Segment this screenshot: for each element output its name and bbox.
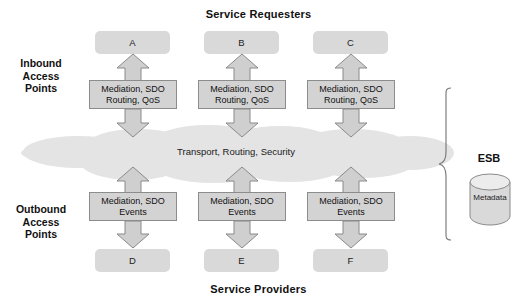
outbound-access-points-label: Outbound Access Points [2,203,80,241]
outbound-access-point-d[interactable]: Mediation, SDO Events [89,192,177,221]
arrow-up-inbound-c-icon [333,53,369,81]
provider-box-e[interactable]: E [204,249,279,272]
inbound-access-point-b-label: Mediation, SDO Routing, QoS [210,84,274,106]
esb-title: ESB [462,152,516,164]
provider-box-f[interactable]: F [313,249,388,272]
outbound-access-point-d-label: Mediation, SDO Events [101,196,165,218]
arrow-up-inbound-b-icon [224,53,260,81]
provider-box-d[interactable]: D [95,249,170,272]
requester-box-c[interactable]: C [313,31,388,54]
inbound-access-point-c-label: Mediation, SDO Routing, QoS [319,84,383,106]
outbound-access-point-f-label: Mediation, SDO Events [319,196,383,218]
arrow-down-inbound-c-icon [333,108,369,138]
inbound-access-point-a[interactable]: Mediation, SDO Routing, QoS [89,80,177,109]
outbound-access-point-e[interactable]: Mediation, SDO Events [198,192,286,221]
service-providers-title: Service Providers [0,283,517,295]
outbound-access-point-f[interactable]: Mediation, SDO Events [307,192,395,221]
service-bus-label: Transport, Routing, Security [18,146,454,157]
arrow-down-provider-f-icon [333,220,369,249]
arrow-up-inbound-a-icon [115,53,151,81]
inbound-access-point-b[interactable]: Mediation, SDO Routing, QoS [198,80,286,109]
esb-brace-icon [437,86,455,242]
outbound-access-point-e-label: Mediation, SDO Events [210,196,274,218]
inbound-access-points-label: Inbound Access Points [2,57,80,95]
arrow-down-provider-e-icon [224,220,260,249]
arrow-down-inbound-b-icon [224,108,260,138]
requester-box-a[interactable]: A [95,31,170,54]
esb-diagram: Service Requesters Inbound Access Points… [0,0,517,302]
inbound-access-point-c[interactable]: Mediation, SDO Routing, QoS [307,80,395,109]
requester-box-b[interactable]: B [204,31,279,54]
arrow-down-inbound-a-icon [115,108,151,138]
service-requesters-title: Service Requesters [0,8,517,20]
inbound-access-point-a-label: Mediation, SDO Routing, QoS [101,84,165,106]
metadata-label: Metadata [462,193,517,202]
arrow-down-provider-d-icon [115,220,151,249]
